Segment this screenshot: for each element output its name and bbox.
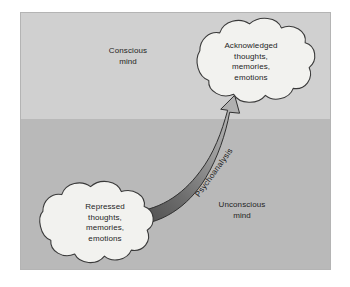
- cloud-repressed-label: Repressed thoughts, memories, emotions: [63, 202, 147, 244]
- cloud-acknowledged-label: Acknowledged thoughts, memories, emotion…: [199, 41, 303, 83]
- diagram-page: Conscious mind Unconscious mind Acknowle…: [0, 0, 350, 287]
- diagram-panel: Conscious mind Unconscious mind Acknowle…: [20, 12, 331, 270]
- unconscious-zone-label: Unconscious mind: [199, 199, 285, 221]
- conscious-zone-label: Conscious mind: [89, 45, 167, 67]
